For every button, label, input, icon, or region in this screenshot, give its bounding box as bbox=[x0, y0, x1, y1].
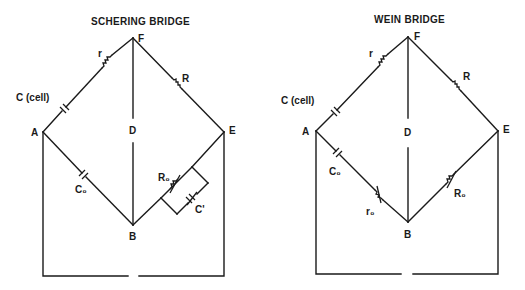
schering-bridge: SCHERING BRIDGE bbox=[16, 16, 236, 276]
r-label: r bbox=[98, 48, 102, 59]
node-a-label: A bbox=[302, 126, 309, 137]
r0-label: R₀ bbox=[158, 172, 170, 183]
resistor-icon bbox=[102, 55, 112, 68]
resistor-icon bbox=[451, 80, 461, 91]
c-prime-label: C' bbox=[195, 204, 205, 215]
arm-f-e bbox=[133, 38, 224, 132]
bridge-diagrams: SCHERING BRIDGE bbox=[0, 0, 525, 290]
wein-title: WEIN BRIDGE bbox=[374, 14, 445, 25]
node-f-label: F bbox=[414, 31, 420, 42]
node-e-label: E bbox=[229, 125, 236, 136]
node-e-label: E bbox=[503, 124, 510, 135]
node-d-label: D bbox=[404, 127, 411, 138]
node-b-label: B bbox=[129, 231, 136, 242]
r-label: r bbox=[369, 48, 373, 59]
resistor-icon bbox=[172, 78, 182, 89]
resistor-icon bbox=[378, 54, 388, 67]
wein-bridge: WEIN BRIDGE bbox=[281, 14, 510, 274]
schering-title: SCHERING BRIDGE bbox=[91, 16, 190, 27]
arm-b-e bbox=[133, 132, 224, 225]
R0-label: R₀ bbox=[454, 188, 466, 199]
variable-resistor-icon bbox=[375, 186, 383, 203]
node-f-label: F bbox=[138, 33, 144, 44]
c0-label: C₀ bbox=[75, 184, 87, 195]
arm-a-f bbox=[43, 38, 133, 132]
supply-loop-left bbox=[316, 131, 401, 274]
c0-label: C₀ bbox=[329, 166, 341, 177]
supply-loop-left bbox=[43, 132, 128, 276]
c-cell-label: C (cell) bbox=[16, 92, 49, 103]
R-label: R bbox=[182, 73, 190, 84]
variable-resistor-icon bbox=[170, 175, 180, 193]
node-a-label: A bbox=[31, 127, 38, 138]
arm-a-f bbox=[316, 37, 408, 131]
node-b-label: B bbox=[404, 229, 411, 240]
supply-loop-right bbox=[139, 132, 224, 276]
supply-loop-right bbox=[413, 131, 498, 274]
r0-label: r₀ bbox=[366, 206, 374, 217]
arm-f-e bbox=[408, 37, 498, 131]
c-cell-label: C (cell) bbox=[281, 95, 314, 106]
R-label: R bbox=[463, 71, 471, 82]
node-d-label: D bbox=[129, 125, 136, 136]
arm-b-e bbox=[408, 131, 498, 222]
arm-a-b bbox=[43, 132, 133, 225]
